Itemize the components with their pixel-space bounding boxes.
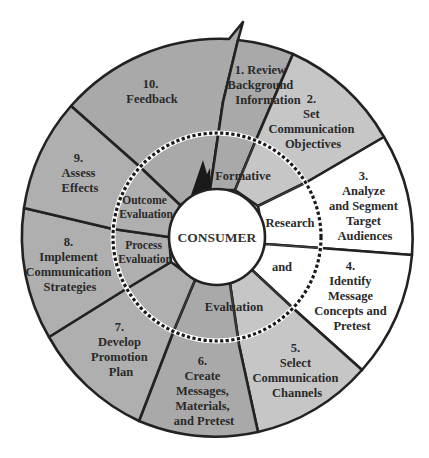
and-label: and [272, 260, 292, 274]
evaluation-label: Evaluation [205, 300, 263, 314]
center-label: CONSUMER [178, 230, 257, 245]
health-communication-wheel-diagram: CONSUMER 1. Review Background Informatio… [0, 0, 429, 458]
formative-label: Formative [215, 169, 271, 183]
research-label: Research [265, 216, 314, 230]
